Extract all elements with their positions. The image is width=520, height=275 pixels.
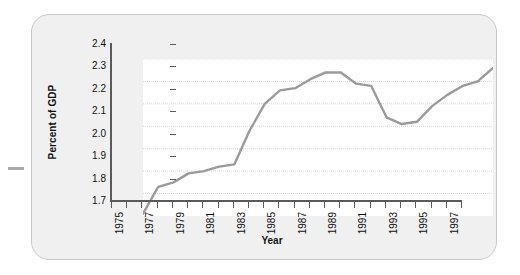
x-tick-mark: [415, 202, 416, 208]
x-tick-label: 1991: [358, 212, 368, 234]
x-tick-mark: [126, 202, 127, 208]
x-tick-label: 1995: [419, 212, 429, 234]
x-tick-mark: [111, 202, 112, 208]
x-tick-mark: [233, 202, 234, 208]
x-tick-mark: [202, 202, 203, 208]
x-tick-label: 1977: [145, 212, 155, 234]
x-axis-ticks: 1975197719791981198319851987198919911993…: [0, 0, 520, 275]
x-tick-mark: [385, 202, 386, 208]
x-tick-mark: [354, 202, 355, 208]
x-tick-mark: [141, 202, 142, 208]
x-tick-mark: [446, 202, 447, 208]
x-tick-mark: [294, 202, 295, 208]
x-tick-label: 1993: [389, 212, 399, 234]
x-tick-mark: [339, 202, 340, 208]
x-tick-mark: [248, 202, 249, 208]
x-tick-mark: [461, 202, 462, 208]
x-tick-mark: [218, 202, 219, 208]
x-tick-mark: [157, 202, 158, 208]
x-tick-label: 1997: [450, 212, 460, 234]
x-axis-title: Year: [0, 235, 520, 246]
x-tick-mark: [278, 202, 279, 208]
x-axis-title-text: Year: [261, 235, 282, 246]
x-tick-mark: [309, 202, 310, 208]
x-tick-label: 1979: [176, 212, 186, 234]
x-tick-mark: [400, 202, 401, 208]
x-tick-label: 1983: [237, 212, 247, 234]
x-tick-mark: [187, 202, 188, 208]
x-tick-label: 1981: [206, 212, 216, 234]
x-tick-label: 1989: [328, 212, 338, 234]
x-tick-mark: [370, 202, 371, 208]
x-tick-mark: [263, 202, 264, 208]
x-tick-label: 1987: [298, 212, 308, 234]
x-tick-label: 1985: [267, 212, 277, 234]
x-tick-mark: [431, 202, 432, 208]
x-tick-mark: [172, 202, 173, 208]
x-tick-label: 1975: [115, 212, 125, 234]
x-tick-mark: [324, 202, 325, 208]
